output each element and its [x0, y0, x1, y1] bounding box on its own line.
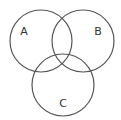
set-b-circle — [52, 10, 114, 72]
venn-diagram: A B C — [0, 0, 121, 120]
set-b-label: B — [94, 25, 102, 38]
set-a-label: A — [20, 25, 28, 38]
set-c-label: C — [59, 97, 67, 110]
